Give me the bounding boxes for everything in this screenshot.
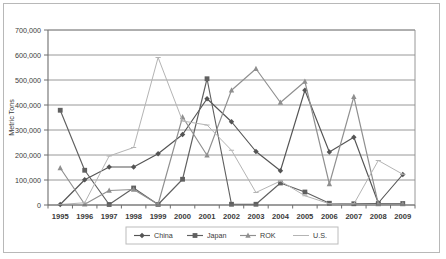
data-point [303,190,308,195]
data-point [205,76,210,81]
x-tick-label: 1998 [125,212,142,221]
data-point [82,168,87,173]
y-tick-label: 400,000 [15,101,41,110]
chart-canvas: 0100,000200,000300,000400,000500,000600,… [0,0,446,259]
data-point [58,165,63,170]
y-axis-ticks [44,30,48,205]
data-point [229,202,234,207]
data-point [58,108,63,113]
x-tick-label: 2007 [345,212,362,221]
data-point [131,164,136,169]
data-point [253,66,258,71]
axis-lines [48,30,415,205]
x-tick-label: 2004 [272,212,290,221]
x-tick-label: 2001 [199,212,217,221]
x-tick-label: 1996 [76,212,93,221]
gridlines [48,30,415,205]
line-chart: 0100,000200,000300,000400,000500,000600,… [0,0,446,259]
y-tick-label: 100,000 [15,176,41,185]
x-tick-label: 1997 [101,212,118,221]
x-tick-label: 2000 [174,212,191,221]
legend-label: China [154,231,173,240]
x-tick-label: 2009 [394,212,411,221]
x-tick-label: 2002 [223,212,240,221]
x-tick-label: 2006 [321,212,338,221]
y-tick-label: 0 [37,201,41,210]
data-point [351,94,356,99]
y-tick-label: 600,000 [15,51,41,60]
data-point [180,177,185,182]
series-line [60,79,403,205]
legend-label: Japan [207,231,227,240]
y-tick-label: 300,000 [15,126,41,135]
x-tick-label: 2003 [248,212,265,221]
x-tick-label: 2008 [370,212,387,221]
legend-label: U.S. [313,231,327,240]
x-axis-tick-labels: 1995199619971998199920002001200220032004… [52,212,411,221]
legend-label: ROK [260,231,276,240]
legend-marker [193,233,198,238]
data-point [106,164,111,169]
y-axis-title-text: Metric Tons [7,99,16,136]
chart-screenshot: 0100,000200,000300,000400,000500,000600,… [0,0,446,259]
y-axis-tick-labels: 0100,000200,000300,000400,000500,000600,… [15,26,41,210]
data-point [254,202,259,207]
x-tick-label: 1999 [150,212,167,221]
x-tick-label: 2005 [296,212,314,221]
y-axis-title: Metric Tons [7,99,16,136]
data-point [327,149,332,154]
data-point [302,79,307,84]
y-tick-label: 700,000 [15,26,41,35]
chart-legend: ChinaJapanROKU.S. [126,227,338,244]
data-point [327,181,332,186]
x-tick-label: 1995 [52,212,70,221]
data-point [351,135,356,140]
y-tick-label: 500,000 [15,76,41,85]
y-tick-label: 200,000 [15,151,41,160]
